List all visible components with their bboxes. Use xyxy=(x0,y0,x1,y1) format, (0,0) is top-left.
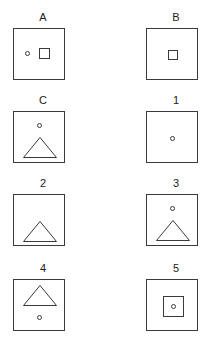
panel-label: 2 xyxy=(12,178,74,189)
circle-shape xyxy=(170,206,175,211)
panel-a[interactable]: A xyxy=(12,12,74,84)
panel-label: C xyxy=(12,95,74,106)
panel-1[interactable]: 1 xyxy=(145,95,207,167)
panel-label: 3 xyxy=(145,178,207,189)
panel-frame xyxy=(13,111,65,163)
panel-label: B xyxy=(145,12,207,23)
triangle-shape xyxy=(23,285,57,306)
circle-shape xyxy=(37,123,42,128)
circle-shape xyxy=(170,136,175,141)
square-shape xyxy=(39,48,50,59)
panel-frame xyxy=(13,279,65,331)
panel-frame xyxy=(13,28,65,80)
panel-label: 5 xyxy=(145,263,207,274)
circle-shape xyxy=(37,315,42,320)
panel-b[interactable]: B xyxy=(145,12,207,84)
square-shape xyxy=(168,50,178,60)
panel-frame xyxy=(146,28,198,80)
circle-shape xyxy=(171,304,176,309)
panel-5[interactable]: 5 xyxy=(145,263,207,335)
panel-frame xyxy=(146,194,198,246)
panel-4[interactable]: 4 xyxy=(12,263,74,335)
circle-shape xyxy=(25,51,30,56)
panel-frame xyxy=(13,194,65,246)
panel-label: 1 xyxy=(145,95,207,106)
triangle-shape xyxy=(23,221,57,242)
panel-frame xyxy=(146,111,198,163)
puzzle-grid: ABC12345 xyxy=(0,0,219,350)
panel-3[interactable]: 3 xyxy=(145,178,207,250)
triangle-shape xyxy=(156,220,190,241)
panel-c[interactable]: C xyxy=(12,95,74,167)
triangle-shape xyxy=(23,137,57,158)
panel-frame xyxy=(146,279,198,331)
panel-label: 4 xyxy=(12,263,74,274)
panel-2[interactable]: 2 xyxy=(12,178,74,250)
panel-label: A xyxy=(12,12,74,23)
